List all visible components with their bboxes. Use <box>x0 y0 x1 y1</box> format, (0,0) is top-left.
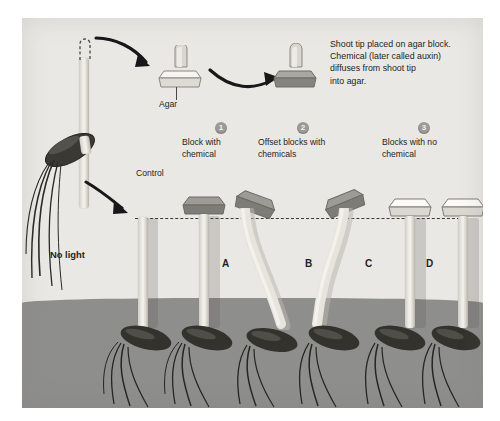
agar-block-clear <box>154 45 206 91</box>
agar-label: Agar <box>159 99 177 111</box>
group-label-3: Blocks with no chemical <box>382 137 468 160</box>
no-light-label: No light <box>50 249 85 261</box>
group-label-1: Block with chemical <box>182 137 260 160</box>
seeds-and-roots-layer <box>100 310 483 408</box>
agar-block-diffused <box>269 43 321 91</box>
caption-text: Shoot tip placed on agar block. Chemical… <box>330 38 480 87</box>
group-badge-3: 3 <box>418 122 430 134</box>
seed-group-E <box>423 321 483 407</box>
arrow-tip-to-agar <box>94 32 160 74</box>
control-label: Control <box>136 168 164 180</box>
specimen-label-C: C <box>365 258 372 270</box>
arrow-control-to-bed <box>84 178 146 218</box>
group-badge-1: 1 <box>215 122 227 134</box>
illustration-panel: Agar Shoot tip placed on agar block. Che… <box>22 18 483 408</box>
seed-group-D <box>366 321 428 407</box>
group-label-2: Offset blocks with chemicals <box>258 137 350 160</box>
specimen-label-D: D <box>426 258 433 270</box>
seed-group-B <box>238 324 300 407</box>
seed-group-control <box>104 321 174 407</box>
removed-tip-outline <box>76 34 94 62</box>
group-badge-2: 2 <box>297 122 309 134</box>
seed-group-C <box>300 321 362 407</box>
figure-root: Agar Shoot tip placed on agar block. Che… <box>0 0 500 421</box>
seed-group-A <box>165 321 235 407</box>
specimen-label-A: A <box>222 258 229 270</box>
